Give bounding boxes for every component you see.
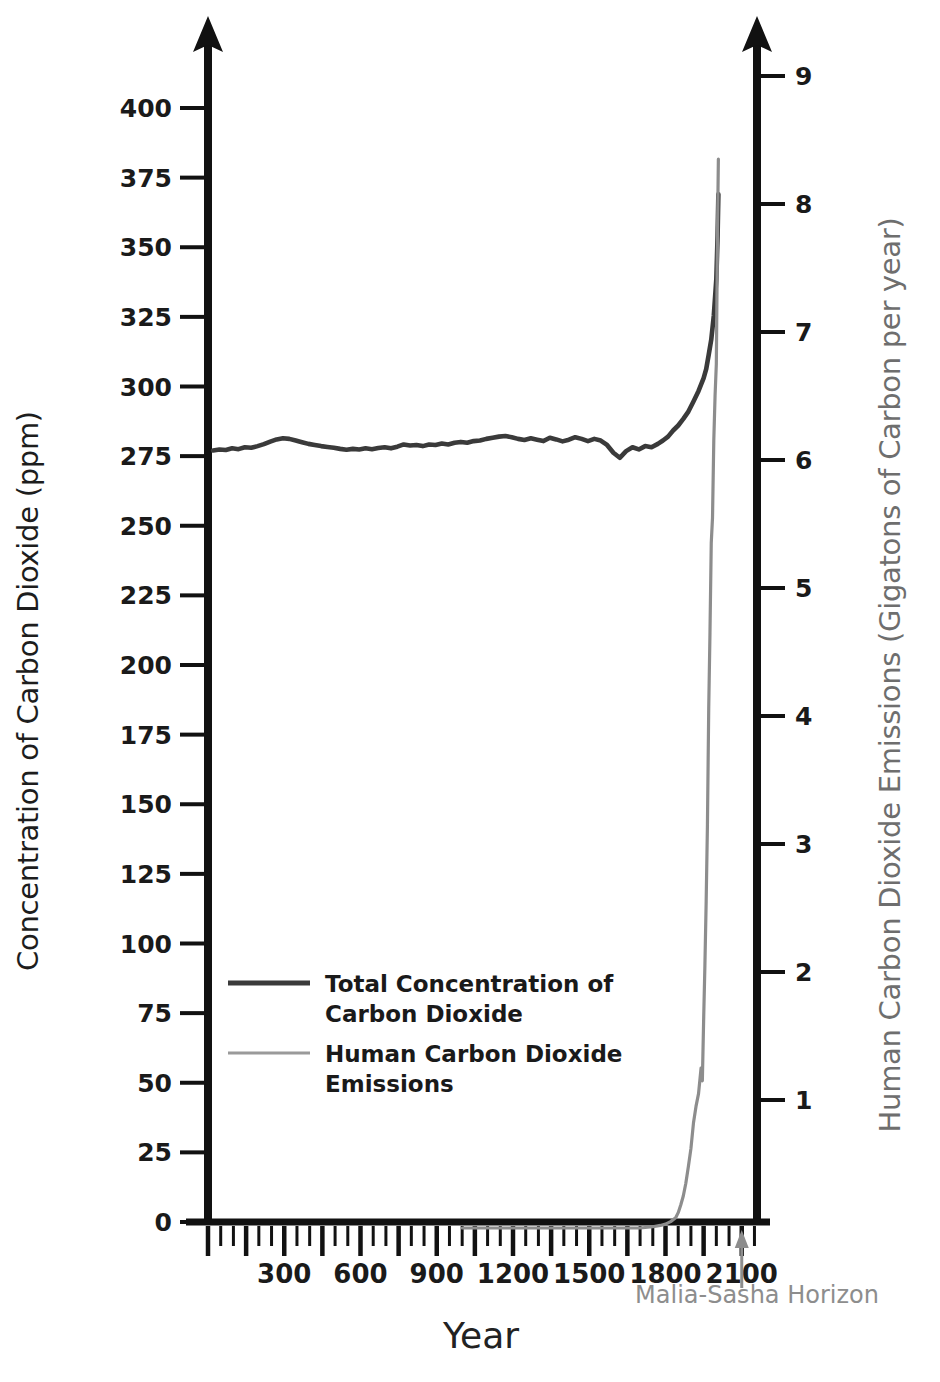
left-tick-label: 325 — [120, 303, 172, 332]
x-tick-label: 1500 — [553, 1259, 625, 1289]
left-tick-label: 0 — [155, 1208, 172, 1237]
right-tick-label: 8 — [795, 190, 812, 219]
chart-container: 0255075100125150175200225250275300325350… — [0, 0, 940, 1382]
right-tick-label: 1 — [795, 1086, 812, 1115]
right-tick-label: 4 — [795, 702, 812, 731]
legend-label-total-concentration-line1: Total Concentration of — [325, 971, 614, 997]
left-tick-label: 275 — [120, 442, 172, 471]
left-tick-label: 350 — [120, 233, 172, 262]
right-tick-label: 9 — [795, 62, 812, 91]
left-tick-label: 300 — [120, 373, 172, 402]
malia-sasha-horizon-label: Malia-Sasha Horizon — [635, 1281, 879, 1309]
right-axis-title: Human Carbon Dioxide Emissions (Gigatons… — [873, 218, 907, 1133]
legend-label-human-emissions-line2: Emissions — [325, 1071, 454, 1097]
left-tick-label: 225 — [120, 581, 172, 610]
x-tick-label: 900 — [410, 1259, 464, 1289]
right-tick-label: 2 — [795, 958, 812, 987]
left-tick-label: 175 — [120, 721, 172, 750]
left-tick-label: 375 — [120, 164, 172, 193]
legend-label-human-emissions-line1: Human Carbon Dioxide — [325, 1041, 622, 1067]
left-tick-label: 75 — [137, 999, 172, 1028]
left-tick-label: 25 — [137, 1138, 172, 1167]
x-axis-title: Year — [442, 1315, 519, 1356]
left-tick-label: 125 — [120, 860, 172, 889]
left-tick-label: 200 — [120, 651, 172, 680]
x-tick-label: 600 — [333, 1259, 387, 1289]
left-tick-label: 400 — [120, 94, 172, 123]
left-tick-label: 100 — [120, 930, 172, 959]
left-tick-label: 150 — [120, 790, 172, 819]
right-tick-label: 7 — [795, 318, 812, 347]
left-axis-title: Concentration of Carbon Dioxide (ppm) — [11, 411, 45, 971]
legend-label-total-concentration-line2: Carbon Dioxide — [325, 1001, 523, 1027]
x-tick-label: 1200 — [477, 1259, 549, 1289]
left-tick-label: 250 — [120, 512, 172, 541]
right-tick-label: 3 — [795, 830, 812, 859]
left-tick-label: 50 — [137, 1069, 172, 1098]
right-tick-label: 6 — [795, 446, 812, 475]
x-tick-label: 300 — [257, 1259, 311, 1289]
right-tick-label: 5 — [795, 574, 812, 603]
co2-concentration-and-emissions-chart: 0255075100125150175200225250275300325350… — [0, 0, 940, 1382]
